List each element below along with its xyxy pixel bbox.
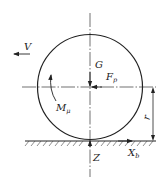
velocity-label: V: [24, 41, 33, 52]
radius-dimension: [151, 87, 155, 141]
normal-force-label: Z: [92, 152, 101, 163]
tangential-force-label: Xb: [127, 147, 139, 160]
wheel-force-diagram: V G Fp Mμ r Z Xb: [0, 0, 166, 185]
moment-arrow: [51, 75, 56, 101]
radius-label: r: [141, 113, 153, 121]
ground-hatching: [25, 141, 153, 146]
moment-label: Mμ: [55, 102, 70, 115]
force-p-label: Fp: [105, 71, 118, 84]
gravity-label: G: [95, 59, 103, 70]
